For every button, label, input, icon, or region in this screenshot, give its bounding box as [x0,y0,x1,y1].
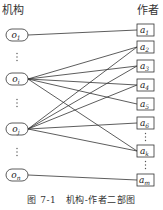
author-node-a4[interactable]: a4 [137,79,154,91]
edges-layer [28,30,137,180]
edge-oi-a3 [28,66,137,79]
author-node-a6[interactable]: a6 [137,117,154,129]
ellipsis-dot [16,148,17,149]
ellipsis-dot [145,133,146,134]
figure-caption: 图 7-1 机构-作者二部图 [0,193,163,206]
ellipsis-dot [16,102,17,103]
edge-oj-a3 [28,66,137,129]
ellipsis-dot [16,106,17,107]
ellipsis-dot [145,168,146,169]
ellipsis-layer [16,53,146,169]
author-node-a5[interactable]: a5 [137,98,154,110]
author-node-ak[interactable]: ak [137,145,154,157]
edge-oi-a2 [28,47,137,79]
ellipsis-dot [16,151,17,152]
author-node-a1[interactable]: a1 [137,24,154,36]
bipartite-graph: o1oiojona1a2a3a4a5a6akam [0,0,163,192]
ellipsis-dot [16,60,17,61]
institution-node-o1[interactable]: o1 [6,29,28,41]
edge-oi-a4 [28,79,137,85]
ellipsis-dot [145,136,146,137]
edge-on-am [28,175,137,180]
ellipsis-dot [16,56,17,57]
institution-node-oj[interactable]: oj [6,123,28,136]
ellipsis-dot [16,155,17,156]
ellipsis-dot [16,53,17,54]
author-node-a2[interactable]: a2 [137,41,154,53]
ellipsis-dot [16,99,17,100]
institution-node-oi[interactable]: oi [6,73,28,85]
author-node-am[interactable]: am [137,174,154,186]
ellipsis-dot [145,140,146,141]
edge-o1-a1 [28,30,137,35]
edge-oj-a6 [28,123,137,129]
author-node-a3[interactable]: a3 [137,60,154,72]
ellipsis-dot [145,161,146,162]
edge-oj-a2 [28,47,137,129]
ellipsis-dot [145,164,146,165]
institution-node-on[interactable]: on [6,169,28,181]
